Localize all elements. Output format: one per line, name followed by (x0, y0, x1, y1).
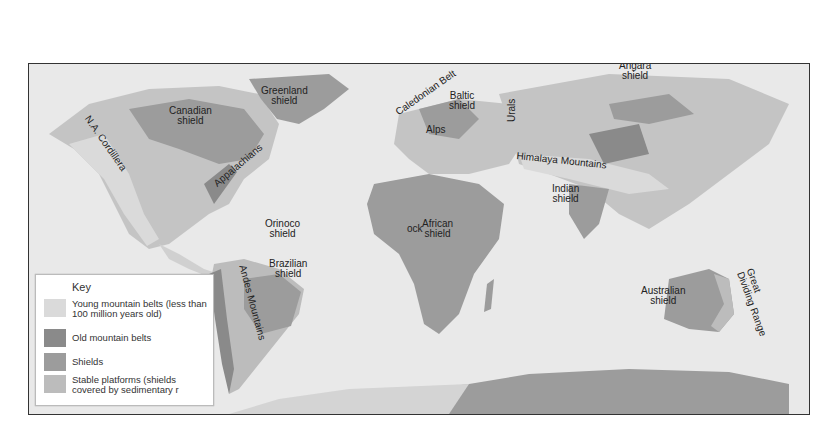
key-label: Shields (72, 353, 103, 367)
label-baltic-shield: Baltic shield (449, 91, 475, 111)
key-item-shields: Shields (44, 353, 103, 371)
label-alps: Alps (426, 125, 445, 135)
key-label: Old mountain belts (72, 329, 151, 343)
label-canadian-shield: Canadian shield (169, 106, 212, 126)
label-greenland-shield: Greenland shield (261, 86, 308, 106)
label-urals: Urals (507, 99, 517, 122)
label-australian-shield: Australian shield (641, 286, 685, 306)
label-african-fragment: ock (407, 224, 423, 234)
madagascar (484, 279, 494, 312)
swatch-old-mountain (44, 329, 66, 347)
world-map: Greenland shield Canadian shield N.A. Co… (28, 63, 810, 415)
key-item-old-mountain: Old mountain belts (44, 329, 151, 347)
swatch-stable-platforms (44, 375, 66, 393)
key-label: Stable platforms (shields covered by sed… (72, 375, 207, 395)
west-antarctica (229, 384, 469, 414)
key-title: Key (72, 281, 91, 293)
swatch-shields (44, 353, 66, 371)
key-label: Young mountain belts (less than 100 mill… (72, 299, 212, 319)
label-brazilian-shield: Brazilian shield (269, 259, 307, 279)
label-african-shield: African shield (422, 219, 453, 239)
label-orinoco-shield: Orinoco shield (265, 219, 300, 239)
key-item-stable-platforms: Stable platforms (shields covered by sed… (44, 375, 207, 395)
label-angara-shield: Angara shield (619, 63, 651, 81)
label-indian-shield: Indian shield (552, 184, 579, 204)
map-key: Key Young mountain belts (less than 100 … (35, 274, 214, 406)
key-item-young-mountain: Young mountain belts (less than 100 mill… (44, 299, 212, 319)
swatch-young-mountain (44, 299, 66, 317)
africa (367, 174, 504, 334)
